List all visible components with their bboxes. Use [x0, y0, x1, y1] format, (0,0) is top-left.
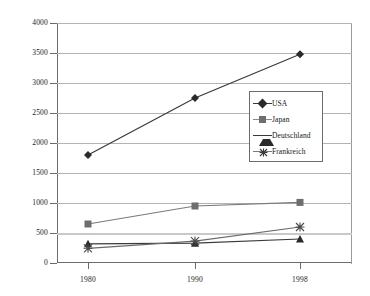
y-tick-3000	[50, 83, 57, 84]
y-tick-500	[50, 233, 57, 234]
cross-marker-icon	[253, 146, 272, 158]
y-tick-1000	[50, 203, 57, 204]
gridline-4000	[57, 23, 352, 24]
gridline-3500	[57, 53, 352, 54]
y-tick-label-3500: 3500	[4, 49, 48, 57]
square-marker-icon	[253, 114, 272, 126]
y-tick-0	[50, 263, 57, 264]
y-tick-2000	[50, 143, 57, 144]
triangle-marker-icon	[253, 130, 272, 142]
y-tick-label-1500: 1500	[4, 169, 48, 177]
x-tick-1980	[88, 263, 89, 269]
y-tick-label-2500: 2500	[4, 109, 48, 117]
legend-item-frankreich: Frankreich	[250, 144, 322, 160]
y-tick-4000	[50, 23, 57, 24]
y-tick-label-4000: 4000	[4, 19, 48, 27]
legend-item-deutschland: Deutschland	[250, 128, 322, 144]
y-tick-2500	[50, 113, 57, 114]
chart-legend: USA Japan Deutschland Frankreich	[249, 91, 323, 162]
legend-label-frankreich: Frankreich	[272, 148, 306, 156]
x-tick-1990	[195, 263, 196, 269]
y-tick-label-1000: 1000	[4, 199, 48, 207]
y-tick-label-500: 500	[4, 229, 48, 237]
legend-item-usa: USA	[250, 96, 322, 112]
x-tick-1998	[300, 263, 301, 269]
y-tick-label-2000: 2000	[4, 139, 48, 147]
plot-right-border	[351, 23, 352, 264]
gridline-1500	[57, 173, 352, 174]
gridline-1000	[57, 203, 352, 204]
y-tick-label-3000: 3000	[4, 79, 48, 87]
gridline-500	[57, 233, 352, 235]
diamond-marker-icon	[253, 98, 272, 110]
y-tick-label-0: 0	[4, 259, 48, 267]
y-tick-1500	[50, 173, 57, 174]
gridline-3000	[57, 83, 352, 84]
legend-label-usa: USA	[272, 100, 287, 108]
y-tick-3500	[50, 53, 57, 54]
legend-item-japan: Japan	[250, 112, 322, 128]
legend-label-japan: Japan	[272, 116, 290, 124]
legend-label-deutschland: Deutschland	[272, 132, 311, 140]
line-chart: 05001000150020002500300035004000 1980199…	[0, 0, 370, 296]
x-tick-label-1980: 1980	[58, 276, 118, 284]
x-tick-label-1990: 1990	[165, 276, 225, 284]
x-tick-label-1998: 1998	[270, 276, 330, 284]
